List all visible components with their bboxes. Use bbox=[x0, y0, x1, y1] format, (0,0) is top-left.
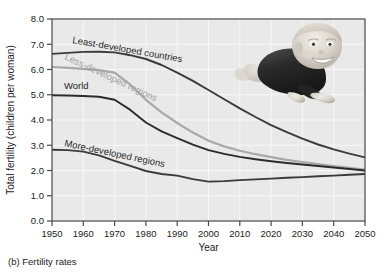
y-axis-tick-labels: 0.0 1.0 2.0 3.0 4.0 5.0 6.0 7.0 8.0 bbox=[31, 13, 44, 226]
x-tick-label: 2000 bbox=[198, 228, 219, 239]
x-tick-label: 2050 bbox=[354, 228, 375, 239]
x-tick-label: 1950 bbox=[41, 228, 62, 239]
x-tick-label: 2020 bbox=[261, 228, 282, 239]
x-tick-label: 2030 bbox=[292, 228, 313, 239]
y-tick-label: 0.0 bbox=[31, 215, 44, 226]
y-axis-ticks bbox=[47, 19, 52, 221]
x-axis-ticks bbox=[52, 221, 365, 226]
x-tick-label: 1970 bbox=[104, 228, 125, 239]
y-tick-label: 1.0 bbox=[31, 190, 44, 201]
figure-fertility-rates: 0.0 1.0 2.0 3.0 4.0 5.0 6.0 7.0 8.0 1 bbox=[0, 0, 386, 277]
y-tick-label: 6.0 bbox=[31, 64, 44, 75]
x-axis-title: Year bbox=[198, 242, 219, 253]
x-tick-label: 1960 bbox=[73, 228, 94, 239]
x-tick-label: 1990 bbox=[167, 228, 188, 239]
y-tick-label: 5.0 bbox=[31, 89, 44, 100]
y-axis-title: Total fertility (children per woman) bbox=[5, 45, 16, 195]
x-tick-label: 2040 bbox=[323, 228, 344, 239]
x-tick-label: 1980 bbox=[135, 228, 156, 239]
series-label-world: World bbox=[64, 80, 89, 91]
y-tick-label: 8.0 bbox=[31, 13, 44, 24]
y-tick-label: 3.0 bbox=[31, 140, 44, 151]
x-tick-label: 2010 bbox=[229, 228, 250, 239]
y-tick-label: 4.0 bbox=[31, 114, 44, 125]
x-axis-tick-labels: 1950 1960 1970 1980 1990 2000 2010 2020 … bbox=[41, 228, 375, 239]
fertility-line-chart: 0.0 1.0 2.0 3.0 4.0 5.0 6.0 7.0 8.0 1 bbox=[0, 0, 386, 277]
figure-caption: (b) Fertility rates bbox=[8, 256, 77, 267]
y-tick-label: 2.0 bbox=[31, 165, 44, 176]
y-tick-label: 7.0 bbox=[31, 39, 44, 50]
